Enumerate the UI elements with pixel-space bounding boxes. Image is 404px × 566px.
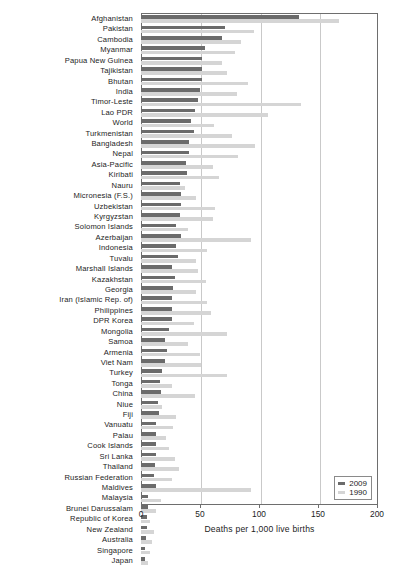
bar-1990 — [141, 426, 173, 430]
category-label: India — [0, 87, 137, 97]
category-label: Turkmenistan — [0, 129, 137, 139]
bar-2009 — [141, 67, 202, 71]
category-label: New Zealand — [0, 525, 137, 535]
bar-2009 — [141, 182, 180, 186]
bar-2009 — [141, 203, 181, 207]
x-tick-label: 100 — [252, 509, 266, 519]
bar-1990 — [141, 19, 339, 23]
category-label: Afghanistan — [0, 14, 137, 24]
bar-row — [141, 358, 377, 368]
bar-row — [141, 108, 377, 118]
bar-row — [141, 556, 377, 566]
bar-2009 — [141, 109, 195, 113]
bar-2009 — [141, 151, 189, 155]
bar-row — [141, 97, 377, 107]
bar-2009 — [141, 536, 146, 540]
bar-1990 — [141, 134, 232, 138]
bar-1990 — [141, 40, 241, 44]
bar-2009 — [141, 296, 172, 300]
bar-row — [141, 483, 377, 493]
bar-row — [141, 535, 377, 545]
bar-row — [141, 400, 377, 410]
category-label: Sri Lanka — [0, 452, 137, 462]
bar-1990 — [141, 384, 172, 388]
category-label: Thailand — [0, 462, 137, 472]
bar-row — [141, 473, 377, 483]
category-label: Nepal — [0, 149, 137, 159]
bar-1990 — [141, 155, 238, 159]
bar-1990 — [141, 447, 169, 451]
bar-1990 — [141, 92, 237, 96]
bar-row — [141, 243, 377, 253]
category-label: Lao PDR — [0, 108, 137, 118]
bar-1990 — [141, 249, 207, 253]
bar-rows — [141, 14, 377, 504]
bar-2009 — [141, 234, 181, 238]
category-label: Timor-Leste — [0, 97, 137, 107]
bar-1990 — [141, 61, 222, 65]
bar-1990 — [141, 415, 176, 419]
bar-1990 — [141, 238, 251, 242]
category-label: Papua New Guinea — [0, 56, 137, 66]
x-tick-mark — [259, 505, 260, 508]
bar-2009 — [141, 328, 169, 332]
bar-2009 — [141, 213, 180, 217]
x-tick-mark — [377, 505, 378, 508]
bar-row — [141, 431, 377, 441]
bar-1990 — [141, 520, 150, 524]
category-label: Niue — [0, 400, 137, 410]
bar-1990 — [141, 353, 200, 357]
bar-2009 — [141, 140, 189, 144]
category-label: Asia-Pacific — [0, 160, 137, 170]
bar-1990 — [141, 561, 148, 565]
bar-row — [141, 420, 377, 430]
bar-1990 — [141, 269, 198, 273]
bar-row — [141, 181, 377, 191]
category-label: Japan — [0, 556, 137, 566]
category-label: Cambodia — [0, 35, 137, 45]
bar-row — [141, 149, 377, 159]
bar-row — [141, 87, 377, 97]
category-label: Australia — [0, 535, 137, 545]
bar-1990 — [141, 165, 213, 169]
bar-1990 — [141, 405, 162, 409]
category-label: Kyrgyzstan — [0, 212, 137, 222]
category-label: Myanmar — [0, 45, 137, 55]
bar-row — [141, 222, 377, 232]
bar-1990 — [141, 540, 152, 544]
bar-1990 — [141, 394, 195, 398]
bar-row — [141, 191, 377, 201]
category-label: Philippines — [0, 306, 137, 316]
bar-2009 — [141, 484, 156, 488]
category-label: Nauru — [0, 181, 137, 191]
bar-1990 — [141, 332, 227, 336]
category-label: Turkey — [0, 368, 137, 378]
category-label: Cook Islands — [0, 441, 137, 451]
x-tick-label: 200 — [370, 509, 384, 519]
category-label: Palau — [0, 431, 137, 441]
category-label: Bhutan — [0, 77, 137, 87]
bar-1990 — [141, 144, 255, 148]
bar-2009 — [141, 36, 222, 40]
category-label: Uzbekistan — [0, 202, 137, 212]
category-label: Maldives — [0, 483, 137, 493]
bar-2009 — [141, 192, 181, 196]
bar-1990 — [141, 311, 211, 315]
bar-row — [141, 264, 377, 274]
category-label: Singapore — [0, 546, 137, 556]
bar-2009 — [141, 317, 172, 321]
bar-2009 — [141, 265, 172, 269]
bar-row — [141, 14, 377, 24]
bar-1990 — [141, 82, 248, 86]
bar-1990 — [141, 124, 214, 128]
bar-row — [141, 24, 377, 34]
bar-2009 — [141, 547, 145, 551]
category-label: Vanuatu — [0, 420, 137, 430]
x-tick-mark — [318, 505, 319, 508]
x-tick-label: 50 — [195, 509, 204, 519]
bar-row — [141, 35, 377, 45]
category-label: Micronesia (F.S.) — [0, 191, 137, 201]
bar-2009 — [141, 276, 175, 280]
category-label: Tuvalu — [0, 254, 137, 264]
bar-row — [141, 337, 377, 347]
